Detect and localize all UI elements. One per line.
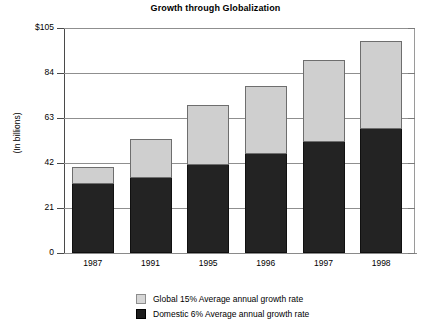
legend-swatch-domestic-icon [136,309,146,319]
x-tick-label-1991: 1991 [126,258,176,268]
y-tick-mark [57,28,64,29]
x-tick-label-1995: 1995 [183,258,233,268]
bar-segment-domestic-1997[interactable] [303,142,345,253]
bar-segment-domestic-1996[interactable] [245,154,287,253]
x-tick-label-1998: 1998 [356,258,406,268]
chart-title: Growth through Globalization [0,3,431,13]
legend-label-global: Global 15% Average annual growth rate [153,294,303,304]
bar-segment-global-1996[interactable] [245,86,287,155]
legend-swatch-global-icon [136,294,146,304]
y-tick-mark-right [408,28,415,29]
y-tick-mark [57,73,64,74]
y-tick-mark [57,208,64,209]
legend-label-domestic: Domestic 6% Average annual growth rate [153,309,309,319]
gridline [64,118,410,119]
bar-segment-domestic-1991[interactable] [130,178,172,253]
bar-segment-domestic-1995[interactable] [187,165,229,253]
gridline [64,73,410,74]
y-tick-label: 42 [0,158,54,167]
y-tick-label: 63 [0,113,54,122]
x-tick-label-1987: 1987 [68,258,118,268]
y-tick-mark-right [408,73,415,74]
y-tick-label: 84 [0,68,54,77]
y-tick-mark [57,118,64,119]
bar-segment-domestic-1987[interactable] [72,184,114,253]
right-axis-line [414,28,415,254]
bar-1991[interactable] [130,139,172,253]
bar-segment-global-1995[interactable] [187,105,229,165]
plot-area [64,28,410,253]
y-tick-label: 21 [0,203,54,212]
y-tick-mark-right [408,118,415,119]
y-tick-mark-right [408,163,415,164]
bar-segment-global-1987[interactable] [72,167,114,184]
bar-1998[interactable] [360,41,402,253]
gridline [64,163,410,164]
x-tick-label-1996: 1996 [241,258,291,268]
y-tick-mark [57,163,64,164]
y-tick-label: $105 [0,23,54,32]
bar-segment-global-1997[interactable] [303,60,345,141]
bar-1997[interactable] [303,60,345,253]
bar-1995[interactable] [187,105,229,253]
bar-1987[interactable] [72,167,114,253]
chart-container: Growth through Globalization (In billion… [0,0,431,333]
chart-legend: Global 15% Average annual growth rate Do… [136,291,396,321]
y-tick-mark-right [408,208,415,209]
x-tick-label-1997: 1997 [299,258,349,268]
y-tick-mark-right [408,253,415,254]
y-tick-label: 0 [0,248,54,257]
y-tick-mark [57,253,64,254]
bar-segment-global-1998[interactable] [360,41,402,129]
legend-item-global: Global 15% Average annual growth rate [136,291,396,306]
legend-item-domestic: Domestic 6% Average annual growth rate [136,306,396,321]
bar-1996[interactable] [245,86,287,253]
bar-segment-domestic-1998[interactable] [360,129,402,253]
bar-segment-global-1991[interactable] [130,139,172,178]
x-axis-line [57,253,417,254]
gridline [64,28,410,29]
gridline [64,208,410,209]
